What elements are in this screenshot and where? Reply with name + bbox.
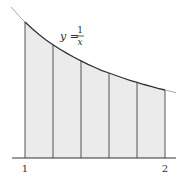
x-tick-label-2: 2 (162, 163, 168, 174)
curve-right-extension (165, 90, 176, 93)
x-tick-label-1: 1 (22, 163, 28, 174)
curve-label-lhs: y = (59, 30, 79, 43)
curve-label: y = 1 x (59, 25, 84, 47)
curve-label-denominator: x (77, 37, 82, 47)
curve-label-numerator: 1 (77, 25, 83, 35)
shaded-region (25, 22, 165, 158)
curve-left-extension (11, 7, 25, 22)
area-under-curve-diagram: y = 1 x 1 2 (0, 0, 187, 184)
